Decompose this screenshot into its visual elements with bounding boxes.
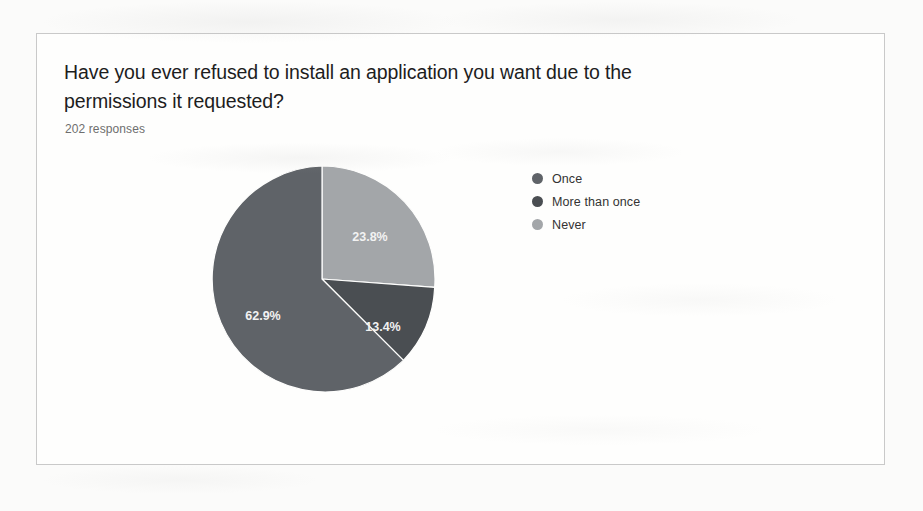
pie-label-never: 23.8%: [352, 230, 387, 244]
legend-item-once[interactable]: Once: [532, 168, 640, 189]
pie-chart-area: 23.8% 13.4% 62.9% Once More than once Ne…: [37, 164, 884, 464]
pie-chart-svg: 23.8% 13.4% 62.9%: [207, 164, 437, 394]
pie-label-more-than-once: 13.4%: [365, 320, 400, 334]
legend-item-more-than-once[interactable]: More than once: [532, 191, 640, 212]
legend-label-once: Once: [552, 172, 582, 186]
legend-item-never[interactable]: Never: [532, 214, 640, 235]
legend-swatch-icon-never: [532, 219, 543, 230]
response-card: Have you ever refused to install an appl…: [36, 33, 885, 465]
page-title: Have you ever refused to install an appl…: [64, 58, 684, 116]
legend-label-more-than-once: More than once: [552, 195, 640, 209]
chart-legend: Once More than once Never: [532, 168, 640, 237]
legend-label-never: Never: [552, 218, 586, 232]
pie-slice-never[interactable]: [322, 166, 435, 287]
response-count-label: 202 responses: [65, 122, 145, 136]
pie-chart: 23.8% 13.4% 62.9%: [207, 164, 437, 394]
pie-label-once: 62.9%: [245, 309, 280, 323]
legend-swatch-icon-once: [532, 173, 543, 184]
legend-swatch-icon-more-than-once: [532, 196, 543, 207]
